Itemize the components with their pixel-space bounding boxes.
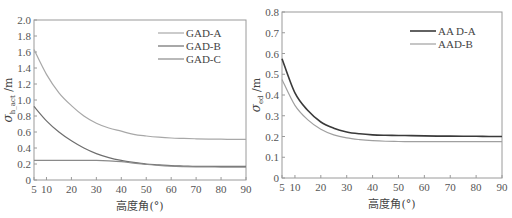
legend-label: AAD-B [438, 38, 473, 50]
y-tick-label: 0.4 [17, 142, 31, 154]
x-tick-label: 20 [315, 181, 327, 193]
x-tick-label: 80 [216, 183, 228, 195]
series-line-gad-b [34, 106, 246, 166]
legend-label: GAD-B [186, 40, 221, 52]
x-tick-label: 60 [166, 183, 178, 195]
y-tick-label: 1.4 [17, 62, 31, 74]
y-tick-label: 1.2 [17, 78, 31, 90]
y-tick-label: 2.0 [17, 14, 31, 26]
legend-label: GAD-C [186, 53, 221, 65]
y-tick-label: 0.2 [17, 158, 31, 170]
y-tick-label: 0.1 [265, 151, 279, 163]
y-axis-title: σed /m [249, 77, 265, 112]
x-tick-label: 60 [419, 181, 431, 193]
x-tick-label: 10 [41, 183, 53, 195]
x-tick-label: 50 [141, 183, 153, 195]
y-tick-label: 0.6 [265, 48, 279, 60]
x-tick-label: 30 [91, 183, 103, 195]
y-tick-label: 0.2 [265, 131, 279, 143]
y-tick-label: 0.6 [17, 126, 31, 138]
y-axis-title: σh_act /m [1, 77, 17, 122]
y-tick-label: 1.0 [17, 94, 31, 106]
x-axis-title: 高度角(°) [116, 199, 163, 213]
y-tick-label: 0.4 [265, 89, 279, 101]
x-tick-label: 20 [66, 183, 78, 195]
series-line-aad-b [282, 79, 502, 141]
y-tick-label: 1.6 [17, 46, 31, 58]
chart-left-gad: 00.20.40.60.81.01.21.41.61.82.0510203040… [1, 14, 252, 213]
x-tick-label: 40 [367, 181, 379, 193]
figure-canvas: 00.20.40.60.81.01.21.41.61.82.0510203040… [0, 0, 512, 218]
x-tick-label: 40 [116, 183, 128, 195]
x-tick-label: 10 [289, 181, 301, 193]
y-tick-label: 0.7 [265, 27, 279, 39]
chart-right-aad: 00.10.20.30.40.50.60.70.8510203040506070… [249, 6, 508, 211]
x-tick-label: 90 [241, 183, 253, 195]
x-tick-label: 80 [471, 181, 483, 193]
x-tick-label: 90 [497, 181, 509, 193]
x-tick-label: 70 [191, 183, 203, 195]
x-tick-label: 30 [341, 181, 353, 193]
x-axis-title: 高度角(°) [368, 197, 415, 211]
legend-label: GAD-A [186, 27, 221, 39]
legend: AA D-AAAD-B [410, 25, 476, 50]
x-tick-label: 5 [279, 181, 285, 193]
legend: GAD-AGAD-BGAD-C [158, 27, 221, 65]
y-tick-label: 1.8 [17, 30, 31, 42]
x-tick-label: 5 [31, 183, 37, 195]
legend-label: AA D-A [438, 25, 476, 37]
y-tick-label: 0.5 [265, 68, 279, 80]
x-tick-label: 70 [445, 181, 457, 193]
x-tick-label: 50 [393, 181, 405, 193]
y-tick-label: 0.8 [17, 110, 31, 122]
y-tick-label: 0.8 [265, 6, 279, 18]
y-tick-label: 0.3 [265, 110, 279, 122]
